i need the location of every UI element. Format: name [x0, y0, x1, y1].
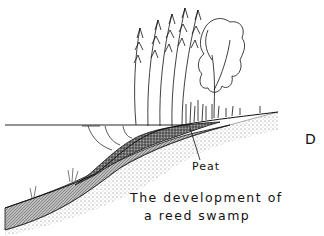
caption-line-1: The development of [130, 190, 283, 205]
panel-letter: D [305, 131, 316, 147]
peat-label: Peat [192, 160, 220, 173]
tree [198, 19, 244, 118]
caption-line-2: a reed swamp [144, 208, 250, 223]
